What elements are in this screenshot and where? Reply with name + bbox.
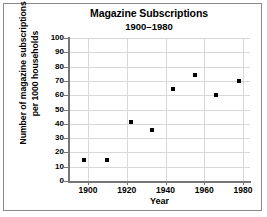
data-point [171, 87, 175, 91]
data-point [214, 93, 218, 97]
y-axis-tick-label: 90 [38, 48, 64, 56]
x-axis-tick-mark [243, 182, 244, 185]
gridline-vertical [243, 38, 244, 181]
chart-figure: Magazine Subscriptions 1900–1980 0102030… [0, 0, 267, 217]
y-axis-tick-label: 0 [38, 177, 64, 185]
plot-area [69, 38, 250, 181]
y-axis-tick-mark [64, 181, 68, 182]
gridline-horizontal [69, 152, 250, 153]
y-axis-tick-mark [64, 38, 68, 39]
gridline-horizontal [69, 167, 250, 168]
data-point [193, 73, 197, 77]
y-axis-tick-mark [64, 67, 68, 68]
y-axis-tick-mark [64, 167, 68, 168]
y-axis-tick-label: 30 [38, 134, 64, 142]
y-axis-tick-mark [64, 110, 68, 111]
data-point [237, 79, 241, 83]
y-axis-tick-mark [64, 95, 68, 96]
x-axis-tick-mark [127, 182, 128, 185]
x-axis-tick-mark [88, 182, 89, 185]
chart-title: Magazine Subscriptions [40, 7, 258, 19]
chart-subtitle: 1900–1980 [40, 21, 258, 32]
y-axis-tick-label: 50 [38, 106, 64, 114]
y-axis-tick-label: 80 [38, 63, 64, 71]
gridline-horizontal [69, 124, 250, 125]
y-axis-tick-label: 20 [38, 148, 64, 156]
gridline-horizontal [69, 81, 250, 82]
y-axis-tick-label: 70 [38, 77, 64, 85]
y-axis-tick-label: 10 [38, 163, 64, 171]
y-axis-tick-label: 100 [38, 34, 64, 42]
gridline-horizontal [69, 52, 250, 53]
data-point [105, 158, 109, 162]
y-axis-title-line2: per 1000 households [29, 3, 41, 145]
x-axis-tick-label: 1900 [68, 185, 108, 195]
y-axis-tick-label: 40 [38, 120, 64, 128]
y-axis-tick-mark [64, 124, 68, 125]
x-axis-tick-label: 1920 [107, 185, 147, 195]
y-axis-line [68, 37, 70, 182]
x-axis-tick-mark [166, 182, 167, 185]
y-axis-tick-label: 60 [38, 91, 64, 99]
gridline-horizontal [69, 110, 250, 111]
data-point [129, 120, 133, 124]
gridline-vertical [127, 38, 128, 181]
gridline-horizontal [69, 67, 250, 68]
gridline-horizontal [69, 138, 250, 139]
gridline-vertical [166, 38, 167, 181]
y-axis-tick-mark [64, 138, 68, 139]
y-axis-tick-mark [64, 81, 68, 82]
x-axis-tick-label: 1940 [146, 185, 186, 195]
y-axis-title: Number of magazine subscriptions per 100… [18, 3, 41, 145]
x-axis-line [68, 181, 251, 183]
y-axis-tick-mark [64, 52, 68, 53]
data-point [82, 158, 86, 162]
x-axis-title: Year [69, 196, 250, 206]
gridline-horizontal [69, 38, 250, 39]
gridline-vertical [88, 38, 89, 181]
gridline-horizontal [69, 95, 250, 96]
y-axis-title-line1: Number of magazine subscriptions [18, 1, 28, 144]
gridline-vertical [204, 38, 205, 181]
x-axis-tick-mark [204, 182, 205, 185]
data-point [150, 128, 154, 132]
x-axis-tick-label: 1960 [184, 185, 224, 195]
y-axis-tick-mark [64, 152, 68, 153]
x-axis-tick-label: 1980 [223, 185, 263, 195]
